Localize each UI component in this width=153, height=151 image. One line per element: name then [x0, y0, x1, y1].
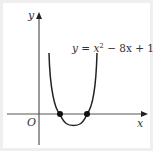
root-point-5 — [84, 111, 90, 117]
equation-label: y = x2 − 8x + 15 — [71, 42, 153, 54]
x-axis-label: x — [137, 117, 144, 130]
origin-label: O — [27, 116, 36, 129]
equation-equals: = — [78, 42, 93, 54]
root-point-3 — [57, 111, 63, 117]
graph-canvas: y x O y = x2 − 8x + 15 — [0, 0, 153, 151]
equation-rest: − 8x + 15 — [104, 42, 153, 54]
y-axis-arrow-icon — [36, 12, 42, 19]
y-axis-label: y — [27, 9, 35, 22]
